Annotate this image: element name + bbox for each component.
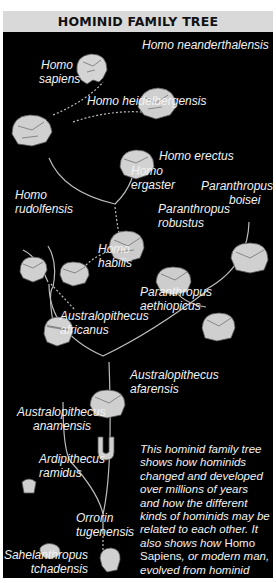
- label-homo-erectus: Homo erectus: [159, 150, 234, 163]
- label-homo-ergaster-genus: Homo: [131, 165, 163, 178]
- homo-rudolfensis-skull-icon: [17, 254, 49, 284]
- label-homo-habilis-species: habilis: [98, 257, 132, 270]
- label-homo-sapiens-genus: Homo: [41, 59, 73, 72]
- label-sahelanthropus-tchadensis-species: tchadensis: [3, 563, 88, 576]
- label-homo-heidelbergensis: Homo heidelbergensis: [87, 95, 206, 108]
- label-australopithecus-anamensis-species: anamensis: [17, 420, 91, 433]
- paranthropus-boisei-skull-icon: [228, 240, 270, 274]
- label-paranthropus-boisei-species: boisei: [229, 194, 260, 207]
- label-australopithecus-africanus-species: africanus: [60, 324, 109, 337]
- label-australopithecus-afarensis-genus: Australopithecus: [130, 369, 219, 382]
- label-ardipithecus-ramidus-species: ramidus: [39, 467, 82, 480]
- description-part1: This hominid family tree shows how homin…: [140, 443, 270, 549]
- paranthropus-aethiopicus-skull-icon: [199, 310, 237, 342]
- label-ardipithecus-ramidus-genus: Ardipithecus: [39, 453, 105, 466]
- label-paranthropus-boisei-genus: Paranthropus: [201, 180, 273, 193]
- label-orrorin-tugenensis-species: tugenensis: [76, 526, 134, 539]
- label-australopithecus-afarensis-species: afarensis: [130, 383, 179, 396]
- sahelanthropus-skull-icon: [97, 546, 123, 574]
- label-orrorin-tugenensis-genus: Orrorin: [76, 512, 113, 525]
- label-homo-neanderthalensis: Homo neanderthalensis: [142, 39, 269, 52]
- diagram-title: HOMINID FAMILY TREE: [58, 14, 218, 29]
- homo-heidelbergensis-skull-icon: [8, 112, 54, 148]
- description-text: This hominid family tree shows how homin…: [140, 443, 270, 578]
- ardipithecus-ramidus-teeth-icon: [19, 476, 39, 496]
- label-australopithecus-anamensis-genus: Australopithecus: [17, 406, 91, 419]
- label-homo-ergaster-species: ergaster: [131, 179, 175, 192]
- homo-habilis-skull-icon: [57, 259, 91, 287]
- tree-panel: Homo neanderthalensis Homo sapiens Homo …: [3, 32, 273, 578]
- label-paranthropus-aethiopicus-species: aethiopicus: [140, 300, 201, 313]
- label-paranthropus-robustus-genus: Paranthropus: [158, 203, 230, 216]
- label-sahelanthropus-tchadensis-genus: Sahelanthropus: [3, 549, 88, 562]
- label-paranthropus-aethiopicus-genus: Paranthropus: [140, 286, 212, 299]
- title-bar: HOMINID FAMILY TREE: [3, 11, 273, 32]
- label-australopithecus-africanus-genus: Australopithecus: [60, 310, 149, 323]
- label-homo-rudolfensis-genus: Homo: [15, 189, 47, 202]
- label-paranthropus-robustus-species: robustus: [158, 217, 204, 230]
- label-homo-sapiens-species: sapiens: [39, 73, 80, 86]
- label-homo-rudolfensis-species: rudolfensis: [15, 203, 73, 216]
- label-homo-habilis-genus: Homo: [98, 243, 130, 256]
